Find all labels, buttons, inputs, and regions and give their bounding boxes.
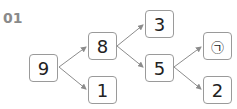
node-8: 8 xyxy=(88,32,117,60)
node-root: 9 xyxy=(29,54,58,82)
node-5: 5 xyxy=(145,54,174,82)
node-3: 3 xyxy=(145,10,174,38)
node-1: 1 xyxy=(88,76,117,104)
node-unknown: ㉠ xyxy=(203,32,232,60)
node-2: 2 xyxy=(203,76,232,104)
